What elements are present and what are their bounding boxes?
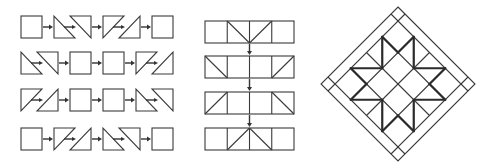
unit-row — [21, 52, 173, 74]
unit-row — [21, 16, 173, 38]
diagram-svg — [0, 0, 485, 164]
quilt-construction-diagram — [0, 0, 485, 164]
square-piece — [152, 128, 173, 150]
joined-row-strip — [205, 21, 294, 43]
square-piece — [21, 16, 42, 38]
unit-row — [21, 89, 173, 111]
unit-row — [21, 128, 173, 150]
joined-rows-panel — [205, 21, 294, 150]
joined-row-strip — [205, 92, 294, 114]
finished-block-panel — [321, 7, 475, 161]
hst-pair-piece — [54, 16, 91, 38]
hst-pair-piece — [136, 52, 173, 74]
hst-pair-piece — [103, 128, 140, 150]
square-piece — [21, 128, 42, 150]
hst-pair-piece — [54, 128, 91, 150]
unit-rows-panel — [21, 16, 173, 150]
joined-row-strip — [205, 56, 294, 78]
hst-pair-piece — [21, 52, 58, 74]
hst-pair-piece — [103, 16, 140, 38]
square-piece — [152, 16, 173, 38]
square-piece — [103, 52, 124, 74]
square-piece — [70, 89, 91, 111]
hst-pair-piece — [21, 89, 58, 111]
joined-row-strip — [205, 128, 294, 150]
hst-pair-piece — [136, 89, 173, 111]
square-piece — [103, 89, 124, 111]
square-piece — [70, 52, 91, 74]
